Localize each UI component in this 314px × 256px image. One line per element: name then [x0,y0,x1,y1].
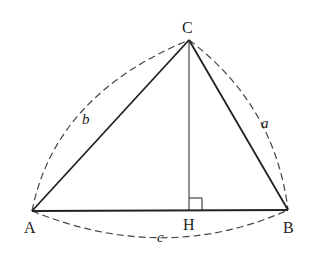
label-side-a: a [261,115,269,131]
label-B: B [283,219,294,236]
label-side-c: c [157,229,164,245]
side-AB [32,210,288,211]
label-C: C [182,19,193,36]
label-side-b: b [82,111,90,127]
triangle-diagram: C A B H b a c [0,0,314,256]
label-H: H [183,216,195,233]
side-AC [32,40,189,211]
label-A: A [24,219,36,236]
right-angle-mark [189,198,202,211]
side-BC [189,40,288,210]
